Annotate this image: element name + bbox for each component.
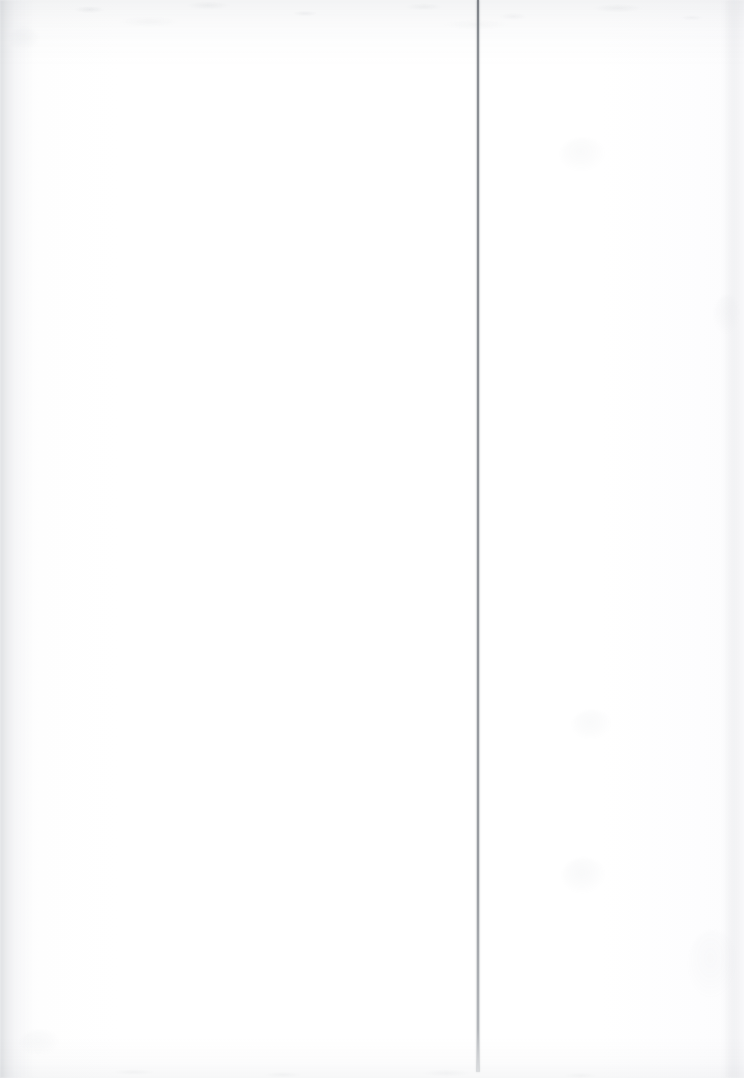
vertical-rule: [477, 0, 479, 1072]
left-edge-shadow: [0, 0, 34, 1078]
bottom-edge-scan-grain: [0, 1036, 744, 1078]
paper-background: [0, 0, 744, 1078]
scanned-page: [0, 0, 744, 1078]
right-edge-streak: [722, 0, 744, 1078]
top-edge-scan-grain: [0, 0, 744, 68]
